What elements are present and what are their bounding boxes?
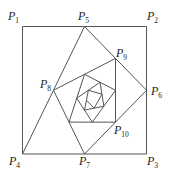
- label-p10: P10: [113, 123, 129, 139]
- label-p7: P7: [78, 154, 90, 170]
- label-p2: P2: [146, 9, 158, 25]
- point-labels: P1P5P2P9P8P6P10P4P7P3: [7, 9, 162, 170]
- label-p9: P9: [115, 46, 127, 62]
- label-p3: P3: [146, 154, 158, 170]
- label-p8: P8: [39, 77, 51, 93]
- label-p6: P6: [150, 84, 162, 100]
- label-p4: P4: [8, 154, 20, 170]
- label-p5: P5: [77, 9, 89, 25]
- label-p1: P1: [7, 9, 19, 25]
- spiral-square-diagram: P1P5P2P9P8P6P10P4P7P3: [0, 0, 169, 176]
